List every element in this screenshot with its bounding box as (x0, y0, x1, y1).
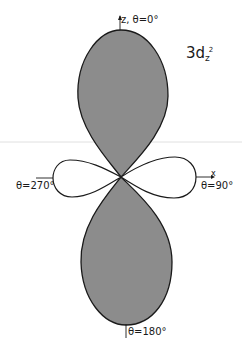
x-axis-label: x (211, 170, 216, 178)
left-angle-label: θ=270° (16, 181, 55, 191)
orbital-label-superscript: 2 (209, 46, 213, 54)
z-axis-label: z, θ=0° (121, 15, 158, 25)
bottom-lobe (81, 177, 172, 325)
orbital-label-main: 3d (186, 44, 205, 62)
orbital-label-subscript: z (205, 53, 210, 63)
bottom-angle-label: θ=180° (128, 327, 167, 337)
orbital-label: 3dz2 (186, 46, 213, 63)
top-lobe (78, 30, 168, 177)
right-angle-label: θ=90° (201, 181, 233, 191)
